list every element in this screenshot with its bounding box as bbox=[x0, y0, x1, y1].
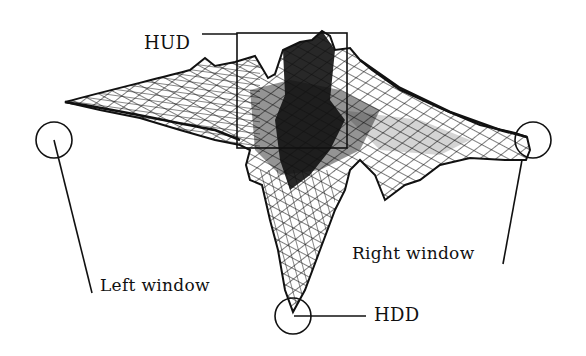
right-window-label: Right window bbox=[352, 245, 475, 262]
diagram-canvas: HUD Left window Right window HDD bbox=[0, 0, 586, 356]
right-window-leader-line bbox=[503, 160, 522, 264]
left-window-label: Left window bbox=[100, 277, 210, 294]
wireframe-surface bbox=[0, 0, 586, 356]
left-window-leader-line bbox=[54, 140, 92, 293]
mesh-fill bbox=[0, 0, 586, 356]
hdd-label: HDD bbox=[374, 306, 419, 324]
hud-label: HUD bbox=[144, 34, 190, 52]
